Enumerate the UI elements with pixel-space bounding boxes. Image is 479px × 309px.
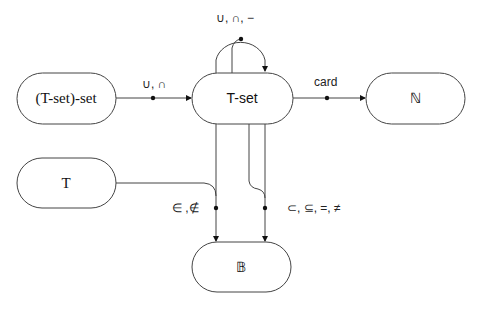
edge-card: card xyxy=(293,75,365,100)
edge-membership: ∈ ,∉ xyxy=(116,124,218,241)
edge-label-union-intersect: ∪, ∩ xyxy=(142,77,166,91)
node-label-bool: 𝔹 xyxy=(236,259,246,275)
edge-union-intersect: ∪, ∩ xyxy=(116,77,191,100)
node-bool: 𝔹 xyxy=(192,242,291,292)
node-nat: ℕ xyxy=(366,73,465,124)
node-label-tset: T-set xyxy=(226,90,257,106)
edge-label-self-ops: ∪, ∩, − xyxy=(216,11,254,25)
edge-label-membership: ∈ ,∉ xyxy=(172,201,199,215)
edge-comparison: ⊂, ⊆, =, ≠ xyxy=(249,124,341,241)
edge-label-card: card xyxy=(314,75,337,89)
edge-label-comparison: ⊂, ⊆, =, ≠ xyxy=(287,201,341,215)
set-operations-diagram: ∪, ∩ ∪, ∩, − card ∈ ,∉ ⊂, ⊆, =, ≠ (T-set… xyxy=(0,0,479,309)
edge-self-ops-loop: ∪, ∩, − xyxy=(216,11,265,73)
node-label-nat: ℕ xyxy=(410,90,421,106)
node-tset: T-set xyxy=(192,73,293,124)
node-label-tset-set: (T-set)-set xyxy=(35,90,97,107)
node-t: T xyxy=(17,158,116,208)
node-tset-set: (T-set)-set xyxy=(17,73,116,124)
node-label-t: T xyxy=(61,175,70,191)
